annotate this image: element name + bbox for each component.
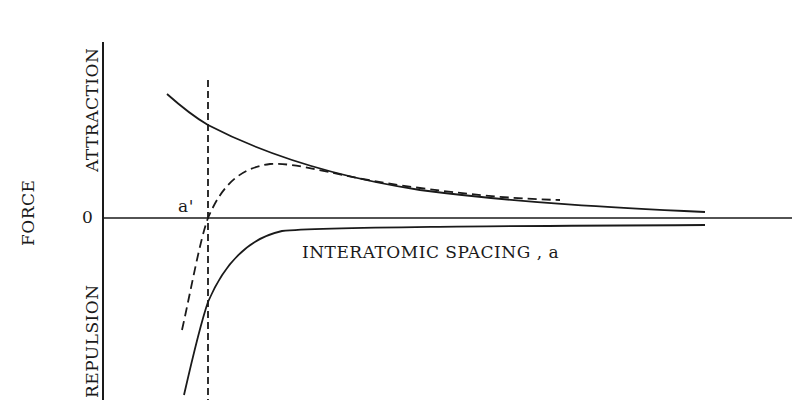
x-axis-label: INTERATOMIC SPACING , a [302,242,559,262]
equilibrium-label: a' [178,196,194,216]
origin-label: 0 [82,207,93,227]
y-positive-label: ATTRACTION [82,48,102,172]
attraction-force-curve [167,94,705,212]
force-diagram [0,0,804,413]
y-negative-label: REPULSION [82,284,102,398]
y-axis-label: FORCE [18,180,38,246]
